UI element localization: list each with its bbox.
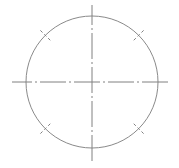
drawing-svg-root [0,0,179,168]
technical-drawing-canvas [0,0,179,168]
